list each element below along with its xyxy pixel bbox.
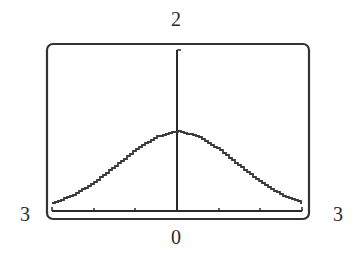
- y-max-label: 2: [171, 9, 181, 29]
- x-max-label: 3: [333, 204, 343, 224]
- x-min-label: 3: [20, 204, 30, 224]
- y-min-label: 0: [171, 227, 181, 247]
- graph-screen: [0, 0, 358, 261]
